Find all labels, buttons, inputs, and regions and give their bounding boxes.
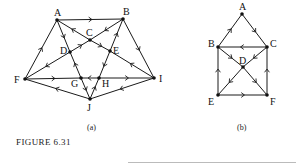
edge-C-D (243, 47, 267, 67)
node-A (55, 18, 59, 22)
node-F (23, 77, 27, 81)
node-label-E: E (113, 45, 119, 56)
node-label-G: G (71, 78, 78, 89)
graph-a-sublabel: (a) (87, 123, 96, 132)
edge-D-F (25, 52, 70, 79)
node-E (108, 49, 112, 53)
edge-F-A (25, 20, 57, 79)
node-A (240, 12, 244, 16)
node-B (121, 17, 125, 21)
edge-A-C (242, 14, 267, 47)
edge-D-E (218, 67, 243, 95)
graph-a: ABCDEFGHIJ (14, 6, 162, 113)
node-label-C: C (86, 27, 93, 38)
node-label-F: F (270, 96, 276, 107)
node-G (79, 76, 83, 80)
node-B (216, 45, 220, 49)
edge-B-A (218, 14, 242, 47)
graph-b-sublabel: (b) (237, 123, 247, 132)
node-label-I: I (159, 73, 162, 84)
divider-rule (128, 162, 296, 163)
node-C (265, 45, 269, 49)
edge-J-F (25, 79, 90, 99)
node-label-B: B (123, 6, 130, 17)
edge-A-B (57, 19, 123, 20)
edge-B-I (123, 19, 154, 78)
node-label-E: E (208, 96, 214, 107)
edge-J-H (90, 78, 99, 99)
node-J (88, 97, 92, 101)
figure-caption: FIGURE 6.31 (16, 137, 71, 147)
edge-I-J (90, 78, 154, 99)
node-label-A: A (54, 7, 62, 18)
node-D (68, 50, 72, 54)
edge-G-J (81, 78, 90, 99)
node-label-D: D (239, 55, 246, 66)
edge-C-E (90, 40, 110, 51)
node-label-A: A (239, 1, 247, 12)
node-label-D: D (60, 45, 67, 56)
edge-G-D (70, 52, 81, 78)
node-H (97, 76, 101, 80)
edge-D-C (70, 40, 90, 52)
node-F (265, 93, 269, 97)
node-E (216, 93, 220, 97)
node-label-F: F (14, 74, 20, 85)
node-C (88, 38, 92, 42)
edge-D-F (243, 67, 267, 95)
node-label-J: J (87, 102, 91, 113)
node-label-B: B (208, 38, 215, 49)
node-label-C: C (270, 38, 277, 49)
edge-E-H (99, 51, 110, 78)
graph-b: ABCDEF (208, 1, 277, 107)
node-I (152, 76, 156, 80)
node-label-H: H (102, 78, 109, 89)
